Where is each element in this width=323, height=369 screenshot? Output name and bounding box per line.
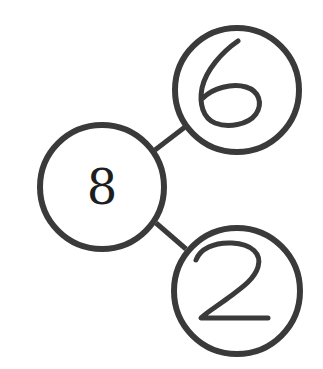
whole-label: 8 — [52, 157, 152, 217]
connector-bottom — [156, 223, 186, 249]
part-circle-top — [175, 28, 299, 152]
connector-top — [155, 127, 185, 150]
number-bond-diagram: 8 6 2 — [0, 0, 323, 369]
diagram-canvas — [0, 0, 323, 369]
